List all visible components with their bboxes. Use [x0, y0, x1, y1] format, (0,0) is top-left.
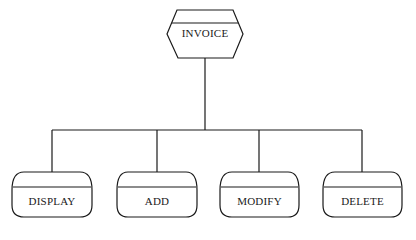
connector-lines	[52, 58, 362, 172]
child-node-label-add: ADD	[117, 195, 197, 207]
child-node-label-delete: DELETE	[323, 195, 402, 207]
root-node-label: INVOICE	[167, 27, 243, 39]
child-node-label-modify: MODIFY	[220, 195, 299, 207]
child-node-label-display: DISPLAY	[12, 195, 92, 207]
